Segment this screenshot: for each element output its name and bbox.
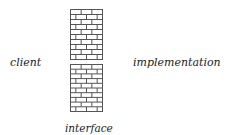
client-label: client <box>10 56 41 69</box>
interface-wall-top-icon <box>70 9 103 60</box>
interface-wall-bottom-icon <box>70 64 103 112</box>
interface-label: interface <box>65 122 113 134</box>
implementation-label: implementation <box>133 56 221 69</box>
